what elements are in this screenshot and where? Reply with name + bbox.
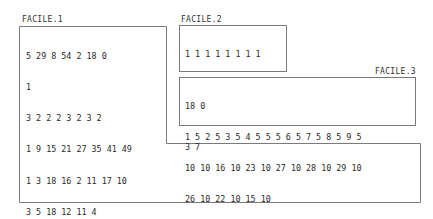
file-label-facile-2: FACILE.2 <box>181 15 222 24</box>
line: 1 1 1 1 1 1 1 1 <box>185 49 261 59</box>
line: 1 5 2 5 3 5 4 5 5 5 6 5 7 5 8 5 9 5 <box>185 132 361 142</box>
line: 18 0 <box>185 101 361 111</box>
line: 10 10 16 10 23 10 27 10 28 10 29 10 <box>185 163 361 173</box>
file-content-facile-3: 18 0 1 5 2 5 3 5 4 5 5 5 6 5 7 5 8 5 9 5… <box>185 80 361 215</box>
line: 26 10 22 10 15 10 <box>185 194 361 204</box>
file-label-facile-3: FACILE.3 <box>375 67 416 76</box>
